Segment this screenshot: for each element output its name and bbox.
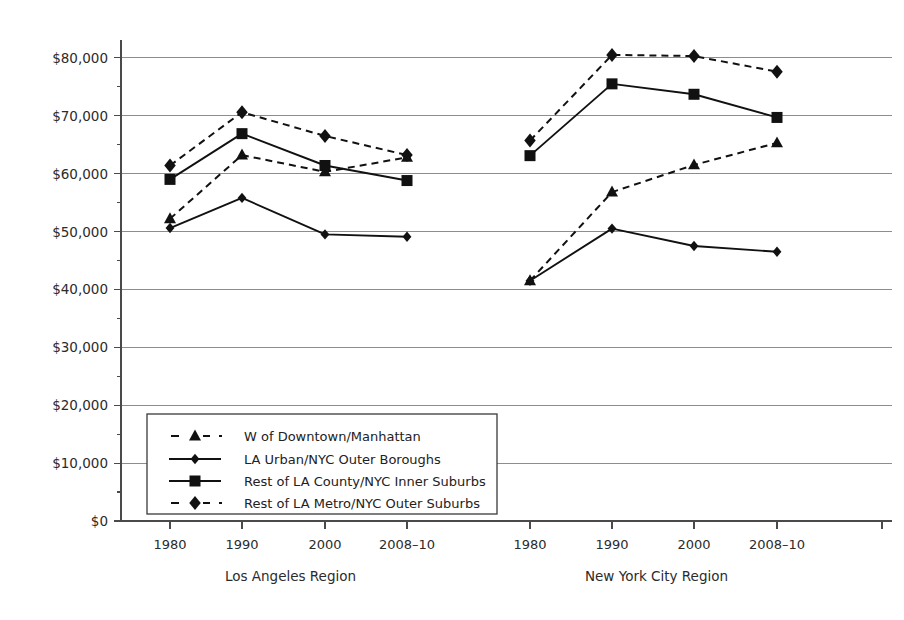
legend-label: LA Urban/NYC Outer Boroughs [244,452,441,467]
data-point-marker [238,193,247,203]
series-3 [164,48,782,173]
data-point-marker [164,158,175,172]
data-point-marker [690,241,699,251]
data-point-marker [608,223,617,233]
y-axis-tick-label: $40,000 [52,281,108,297]
legend-label: Rest of LA Metro/NYC Outer Suburbs [244,496,480,511]
data-point-marker [402,175,413,186]
data-point-marker [772,112,783,123]
series-1 [166,193,782,286]
x-axis-ticks [170,521,882,529]
x-axis-tick-label: 2000 [308,537,341,552]
x-axis-tick-label: 2000 [677,537,710,552]
data-point-marker [525,150,536,161]
y-axis-tick-label: $20,000 [52,397,108,413]
data-point-marker [321,229,330,239]
data-point-marker [237,128,248,139]
data-point-marker [403,232,412,242]
series-2 [165,78,783,186]
group-labels: Los Angeles RegionNew York City Region [225,568,728,584]
series-0 [164,136,783,285]
x-axis-tick-label: 1990 [225,537,258,552]
y-axis-tick-label: $50,000 [52,224,108,240]
data-point-marker [607,78,618,89]
y-axis-tick-label: $10,000 [52,455,108,471]
group-label: New York City Region [585,568,728,584]
data-series-layer [164,48,783,286]
data-point-marker [320,160,331,171]
legend-marker [190,476,201,487]
data-point-marker [771,136,783,147]
series-line [530,229,777,281]
series-line [530,84,777,156]
y-axis-tick-label: $80,000 [52,50,108,66]
x-axis-tick-labels: 1980199020002008–101980199020002008–10 [153,537,805,552]
data-point-marker [771,65,782,79]
series-line [170,155,407,219]
data-point-marker [319,129,330,143]
x-axis-tick-label: 2008–10 [749,537,805,552]
legend-label: Rest of LA County/NYC Inner Suburbs [244,474,486,489]
y-axis-tick-label: $0 [91,513,108,529]
y-axis-tick-label: $30,000 [52,339,108,355]
data-point-marker [236,105,247,119]
line-chart: $0$10,000$20,000$30,000$40,000$50,000$60… [0,0,904,620]
legend-label: W of Downtown/Manhattan [244,429,421,444]
data-point-marker [236,149,248,160]
data-point-marker [165,174,176,185]
x-axis-tick-label: 2008–10 [379,537,435,552]
y-axis-tick-labels: $0$10,000$20,000$30,000$40,000$50,000$60… [52,50,108,529]
chart-legend: W of Downtown/ManhattanLA Urban/NYC Oute… [147,414,497,514]
x-axis-tick-label: 1990 [595,537,628,552]
series-line [530,55,777,141]
series-line [170,198,407,237]
group-label: Los Angeles Region [225,568,356,584]
x-axis-tick-label: 1980 [513,537,546,552]
y-axis-tick-label: $70,000 [52,108,108,124]
data-point-marker [689,89,700,100]
chart-container: $0$10,000$20,000$30,000$40,000$50,000$60… [0,0,904,620]
data-point-marker [688,49,699,63]
data-point-marker [773,247,782,257]
x-axis-tick-label: 1980 [153,537,186,552]
series-line [530,143,777,281]
y-axis-tick-label: $60,000 [52,166,108,182]
data-point-marker [688,158,700,169]
